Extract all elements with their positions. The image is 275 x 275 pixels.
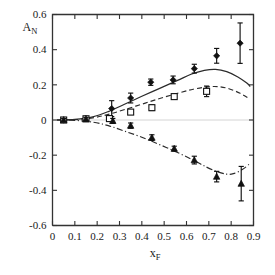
y-tick-label: 0.4 [33,43,47,55]
x-tick-label: 0.2 [90,230,104,242]
y-tick-label: 0.6 [33,8,47,20]
data-point-diamond [191,66,197,72]
x-tick-label: 0.1 [68,230,82,242]
data-point-triangle [213,173,219,179]
y-tick-label: -0.4 [29,184,47,196]
y-tick-label: -0.6 [29,219,47,231]
x-axis-title: xF [150,246,161,262]
data-point-diamond [214,53,220,59]
x-tick-label: 0.5 [157,230,171,242]
y-tick-label: -0.2 [29,149,46,161]
data-point-triangle [191,157,197,163]
x-tick-label: 0 [50,230,56,242]
x-tick-label: 0.4 [135,230,149,242]
x-tick-label: 0.8 [224,230,238,242]
data-point-square [204,88,210,94]
chart-figure: 0.60.40.20-0.2-0.4-0.600.10.20.30.40.50.… [0,0,275,275]
data-point-square [171,94,177,100]
y-tick-label: 0 [41,114,47,126]
data-point-diamond [148,79,154,85]
series-negative-asymmetry [60,116,244,201]
x-tick-label: 0.3 [113,230,127,242]
data-point-square [149,105,155,111]
y-tick-label: 0.2 [33,79,47,91]
fit-curve-dash-dot [57,120,249,174]
x-tick-label: 0.9 [247,230,261,242]
fit-curve-solid [57,69,250,120]
data-point-square [128,109,134,115]
x-tick-label: 0.7 [202,230,216,242]
asymmetry-scatter-chart: 0.60.40.20-0.2-0.4-0.600.10.20.30.40.50.… [0,0,275,275]
data-point-triangle [238,180,244,186]
x-tick-label: 0.6 [180,230,194,242]
y-axis-title: AN [23,20,38,36]
data-point-diamond [237,40,243,46]
series-intermediate-asymmetry [61,86,210,123]
